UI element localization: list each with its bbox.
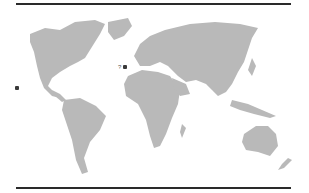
south-america <box>62 98 106 174</box>
atlantic-marker-label: ? <box>118 64 121 70</box>
atlantic-marker[interactable] <box>123 65 127 69</box>
greenland <box>108 18 132 40</box>
pacific-marker[interactable] <box>15 86 19 90</box>
australia <box>242 126 278 156</box>
bottom-rule <box>16 187 291 189</box>
north-america <box>30 20 105 98</box>
world-map <box>0 0 309 193</box>
southeast-asia-islands <box>230 100 276 118</box>
madagascar <box>180 124 186 138</box>
japan <box>248 58 256 76</box>
new-zealand <box>278 158 292 170</box>
africa <box>124 70 180 148</box>
